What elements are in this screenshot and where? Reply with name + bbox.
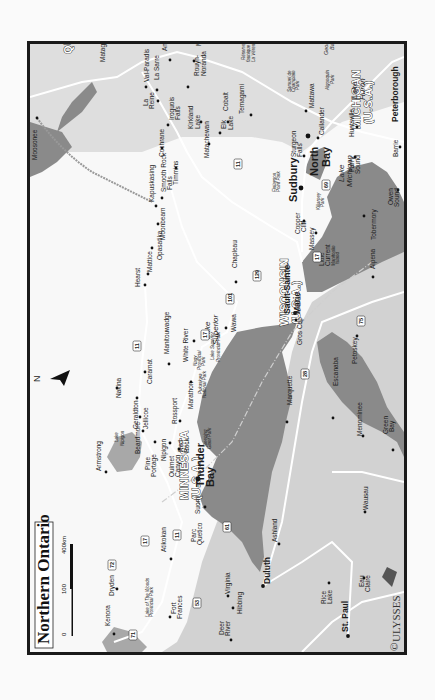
city-marker-icon [250,114,253,117]
map-title: Northern Ontario [34,514,53,644]
city-label: Frances [176,595,183,619]
city-label: Barrie [392,139,399,157]
svg-text:100: 100 [61,583,67,594]
svg-text:28: 28 [302,371,308,377]
city-marker-icon [36,117,39,120]
city-marker-icon [167,124,170,127]
city-label: Bay [204,466,216,487]
highway-shield-icon: 101 [226,293,234,304]
city-marker-icon [161,197,164,200]
svg-text:ULYSSES: ULYSSES [390,595,402,642]
city-label: White River [182,328,189,362]
city-label: Falls [166,176,173,190]
city-label: Reine [148,92,155,109]
city-label: Amos [161,44,168,51]
city-marker-icon [230,639,233,642]
map-title-box: Northern Ontario [34,514,53,648]
city-label: Hearst [134,268,141,287]
svg-text:11: 11 [174,532,180,538]
city-label: Dryden [108,575,116,596]
city-marker-icon [169,616,172,619]
city-marker-icon [157,100,160,103]
city-label: Caramat [146,359,153,384]
city-marker-icon [193,340,196,343]
city-label: Canyon [174,454,182,477]
northern-ontario-map[interactable]: N Northern Ontario 0 100 400km ULYSSES ©… [30,44,404,652]
city-label: Kapuskasing [148,164,156,202]
park-label: Provincial Park [149,586,154,617]
city-label: Cobalt [222,92,229,111]
svg-text:©: © [388,643,400,651]
city-marker-icon [225,327,228,330]
city-marker-icon [179,420,182,423]
city-marker-icon [219,132,222,135]
city-label: Current [324,244,331,266]
city-marker-icon [305,110,308,113]
city-marker-icon [227,595,230,598]
city-marker-icon [332,417,335,420]
park-label: Park [295,80,300,90]
highway-shield-icon: 72 [108,560,116,570]
svg-text:11: 11 [134,343,140,349]
city-marker-icon [399,146,402,149]
park-label: Lake Superior [210,331,215,360]
city-marker-icon [356,126,359,129]
city-marker-icon [392,449,395,452]
park-label: Giant Park [207,427,212,449]
city-label: Lake [326,590,333,604]
city-marker-icon [235,281,238,284]
city-label: Marquette [286,375,294,405]
city-label: Sudbury [287,157,299,202]
city-label: Tobermory [370,209,378,240]
city-label: Cliff [300,221,307,232]
city-marker-icon [105,471,108,474]
city-marker-icon [145,86,148,89]
city-marker-icon [156,89,159,92]
city-label: Hibbing [236,592,244,614]
city-marker-icon [142,430,145,433]
city-marker-icon [315,232,318,235]
city-label: Gros Cap [296,317,304,345]
city-label: Petoskey [351,337,359,364]
city-label: Mattice [146,251,153,272]
city-marker-icon [299,186,304,191]
city-label: Escanaba [332,357,339,386]
city-label: Val-Paradis [143,48,150,82]
highway-shield-icon: 11 [173,530,181,540]
park-label: Nipigon [120,430,125,446]
city-label: Cochrane [158,128,165,157]
city-label: Quetico [196,522,204,545]
city-label: Virginia [224,572,232,594]
park-label: La Vérendrye [251,44,256,62]
city-label: Sound [354,155,361,174]
city-label: Jellicoe [142,407,149,429]
city-marker-icon [151,247,154,250]
city-label: Mattawa [308,83,315,108]
city-marker-icon [364,511,367,514]
map-frame: N Northern Ontario 0 100 400km ULYSSES ©… [27,41,407,655]
city-label: Huntsville [348,108,355,137]
svg-text:N: N [32,376,42,383]
city-label: Elk [220,119,227,129]
city-label: Menominee [356,402,363,436]
city-marker-icon [278,543,281,546]
city-label: Claire [364,575,371,592]
city-marker-icon [113,633,116,636]
svg-text:71: 71 [130,632,136,638]
city-label: Armstrong [95,441,103,471]
city-label: Timmins [172,160,179,185]
highway-shield-icon: 61 [223,522,231,532]
city-marker-icon [363,215,366,218]
city-label: St. Paul [340,601,350,632]
city-label: Portage [150,454,158,477]
city-label: Beardmore [134,421,141,454]
city-label: Falls [174,106,181,120]
city-label: Alpena [369,248,377,269]
svg-text:400km: 400km [61,536,67,554]
city-marker-icon [139,416,142,419]
svg-text:17: 17 [142,538,148,544]
svg-text:69: 69 [323,182,329,188]
city-label: Bay [320,146,332,167]
highway-shield-icon: 53 [193,598,201,608]
svg-text:61: 61 [224,524,230,530]
